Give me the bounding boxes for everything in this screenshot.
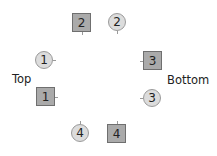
label-top: Top [12, 72, 31, 86]
node-number: 2 [113, 15, 121, 29]
connector-tick [117, 121, 118, 124]
connector-tick [55, 97, 58, 98]
node-number: 4 [113, 127, 121, 141]
connector-tick [53, 60, 56, 61]
node-number: 4 [76, 126, 84, 140]
circle-node-2: 2 [108, 13, 126, 31]
circle-node-4: 4 [71, 124, 89, 142]
connector-tick [140, 61, 143, 62]
circle-node-1: 1 [35, 51, 53, 69]
square-node-2: 2 [72, 13, 91, 32]
node-number: 3 [148, 91, 156, 105]
label-bottom: Bottom [167, 73, 209, 87]
node-number: 3 [149, 54, 157, 68]
square-node-3: 3 [143, 51, 162, 70]
connector-tick [80, 121, 81, 124]
node-number: 1 [40, 53, 48, 67]
node-number: 2 [78, 16, 86, 30]
square-node-4: 4 [107, 124, 126, 143]
circle-node-3: 3 [143, 89, 161, 107]
node-number: 1 [42, 90, 50, 104]
connector-tick [140, 98, 143, 99]
square-node-1: 1 [36, 87, 55, 106]
connector-tick [82, 32, 83, 35]
connector-tick [117, 31, 118, 34]
